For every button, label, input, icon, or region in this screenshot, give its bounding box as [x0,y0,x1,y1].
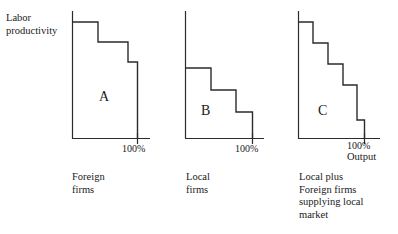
labor-productivity-step-figure: Labor productivity A B C 100% 100% 100% … [0,0,398,234]
panel-b-caption: Local firms [186,171,276,196]
panel-letter-a: A [99,90,109,104]
panel-a-tick-label: 100% [122,143,145,155]
panel-letter-b: B [201,104,210,118]
y-axis-label: Labor productivity [6,12,68,37]
panel-c-step-curve [299,22,365,139]
x-axis-label: Output [347,151,376,163]
panel-a-step-curve [73,22,138,139]
panel-b-step-curve [186,68,253,139]
panel-b-tick-label: 100% [235,143,258,155]
panel-a-caption: Foreign firms [72,171,162,196]
panel-letter-c: C [318,104,327,118]
panel-c-group [298,11,380,144]
panel-c-caption: Local plus Foreign firms supplying local… [299,171,398,221]
panel-b-group [185,11,264,144]
panel-a-group [72,11,150,144]
